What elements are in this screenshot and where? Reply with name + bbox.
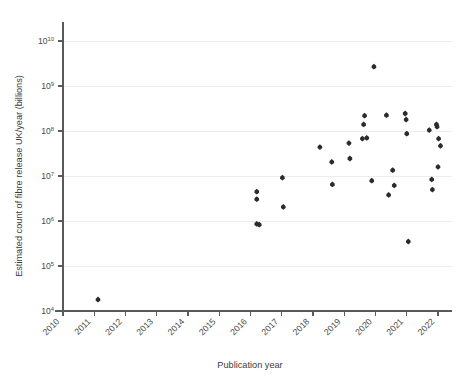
y-tick-label-6: 106 — [41, 216, 55, 227]
data-point — [390, 167, 395, 173]
data-point — [347, 140, 352, 146]
data-point — [430, 187, 435, 193]
x-tick-label-2021: 2021 — [384, 316, 405, 337]
tick-marks — [58, 41, 438, 316]
data-point — [369, 178, 374, 184]
y-axis-title: Estimated count of fibre release UK/year… — [14, 75, 24, 277]
x-tick-label-2013: 2013 — [134, 316, 155, 337]
data-point — [362, 113, 367, 119]
data-point — [330, 182, 335, 188]
data-point — [329, 159, 334, 165]
chart-canvas: 1041051061071081091010 20102011201220132… — [0, 0, 471, 384]
data-point — [436, 164, 441, 170]
data-point — [384, 112, 389, 118]
data-point — [438, 143, 443, 149]
x-tick-label-2012: 2012 — [103, 316, 124, 337]
data-point — [318, 144, 323, 150]
data-point — [392, 182, 397, 188]
y-tick-label-8: 108 — [41, 126, 55, 137]
x-tick-label-2011: 2011 — [72, 316, 92, 336]
data-point — [429, 177, 434, 183]
y-tick-label-9: 109 — [41, 81, 54, 92]
data-point — [96, 297, 101, 303]
y-tick-labels: 1041051061071081091010 — [38, 36, 55, 317]
data-point — [348, 156, 353, 162]
x-tick-label-2020: 2020 — [353, 316, 374, 337]
data-point — [360, 136, 365, 142]
x-tick-label-2010: 2010 — [41, 316, 62, 337]
axis-lines — [55, 22, 452, 311]
gridlines — [63, 41, 452, 311]
x-tick-label-2016: 2016 — [228, 316, 249, 337]
x-tick-labels: 2010201120122013201420152016201720182019… — [41, 316, 437, 337]
x-axis-title: Publication year — [217, 360, 282, 370]
x-tick-label-2022: 2022 — [416, 316, 437, 337]
x-tick-label-2014: 2014 — [166, 316, 187, 337]
data-point — [372, 64, 377, 70]
data-point — [361, 122, 366, 128]
data-point — [281, 204, 286, 210]
data-point — [254, 189, 259, 195]
data-point — [404, 131, 409, 137]
data-points — [96, 64, 443, 303]
x-tick-label-2018: 2018 — [291, 316, 312, 337]
x-tick-label-2017: 2017 — [259, 316, 280, 337]
y-tick-label-7: 107 — [41, 171, 54, 182]
data-point — [404, 117, 409, 123]
x-tick-label-2019: 2019 — [322, 316, 343, 337]
y-tick-label-10: 1010 — [38, 36, 55, 47]
data-point — [406, 239, 411, 245]
data-point — [436, 136, 441, 142]
y-tick-label-5: 105 — [41, 261, 55, 272]
x-tick-label-2015: 2015 — [197, 316, 218, 337]
scatter-chart: 1041051061071081091010 20102011201220132… — [0, 0, 471, 384]
data-point — [386, 192, 391, 198]
data-point — [403, 111, 408, 117]
y-tick-label-4: 104 — [41, 306, 55, 317]
data-point — [254, 196, 259, 202]
data-point — [364, 135, 369, 141]
data-point — [427, 127, 432, 133]
